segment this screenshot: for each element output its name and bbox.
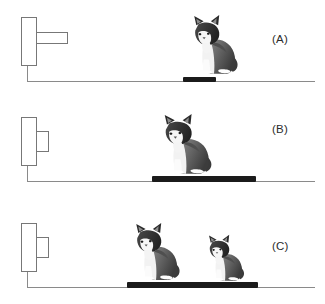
wall-block-icon xyxy=(21,223,37,272)
panel-label-c: (C) xyxy=(272,240,289,252)
cat-icon xyxy=(130,222,182,284)
panel-c: (C) xyxy=(0,0,325,304)
spring-rod-icon xyxy=(36,237,49,258)
ground-riser xyxy=(27,272,28,288)
cat-icon xyxy=(204,234,246,284)
physics-diagram-figure: (A)(B)(C) xyxy=(0,0,325,304)
